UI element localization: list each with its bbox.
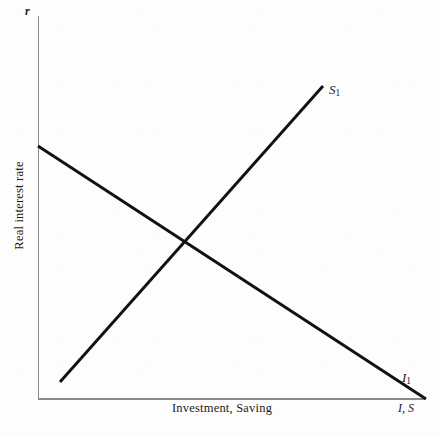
- x-axis-end-label: I, S: [398, 401, 414, 416]
- saving-curve-label: S1: [329, 82, 340, 98]
- x-axis-title: Investment, Saving: [172, 401, 272, 416]
- saving-curve-label-subscript: 1: [336, 88, 341, 98]
- loanable-funds-figure: r Real interest rate Investment, Saving …: [0, 0, 440, 436]
- investment-demand-curve: [38, 146, 426, 399]
- chart-plot-area: [0, 0, 440, 436]
- investment-curve-label-subscript: 1: [406, 376, 411, 386]
- y-axis-top-label: r: [25, 4, 30, 19]
- investment-curve-label: I1: [402, 370, 411, 386]
- y-axis-title: Real interest rate: [12, 146, 27, 266]
- saving-supply-curve: [60, 86, 323, 382]
